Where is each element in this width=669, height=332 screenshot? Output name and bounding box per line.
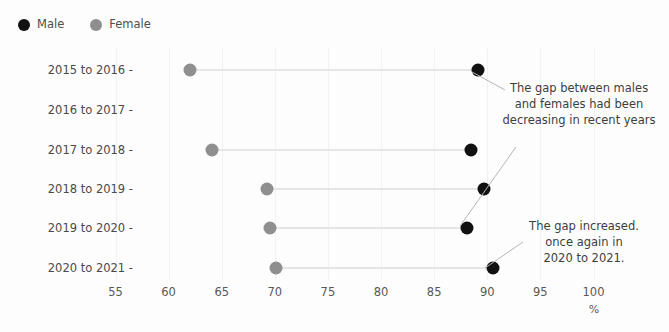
x-tick-90: 90 — [480, 285, 495, 299]
x-tick-70: 70 — [268, 285, 283, 299]
x-tick-65: 65 — [214, 285, 229, 299]
x-tick-85: 85 — [427, 285, 442, 299]
x-tick-75: 75 — [321, 285, 336, 299]
x-axis-unit-label: % — [589, 303, 599, 316]
x-tick-80: 80 — [374, 285, 389, 299]
x-tick-55: 55 — [108, 285, 123, 299]
x-tick-95: 95 — [533, 285, 548, 299]
x-axis: 556065707580859095100 — [0, 0, 669, 332]
x-tick-60: 60 — [161, 285, 176, 299]
dumbbell-chart: Male Female 2015 to 2016 - 2016 to 2017 … — [0, 0, 669, 332]
x-tick-100: 100 — [583, 285, 605, 299]
